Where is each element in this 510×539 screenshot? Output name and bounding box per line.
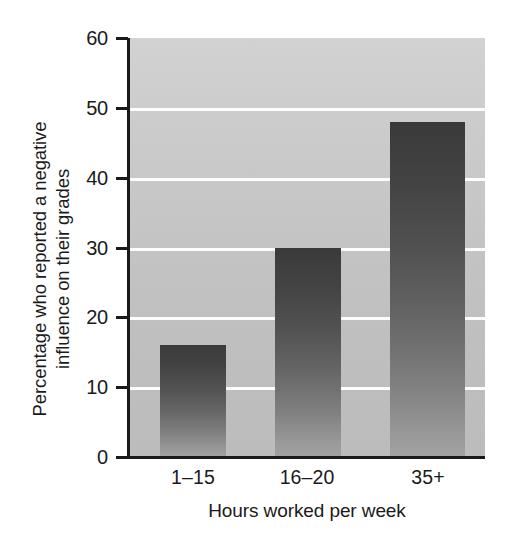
y-tick-label-10: 10 xyxy=(60,377,108,397)
x-axis-title: Hours worked per week xyxy=(129,500,485,522)
bar-1-15 xyxy=(160,345,226,457)
y-tick-label-60: 60 xyxy=(60,28,108,48)
y-tick-label-0: 0 xyxy=(60,447,108,467)
tick-mark-60 xyxy=(116,37,128,40)
tick-mark-40 xyxy=(116,177,128,180)
x-category-label-35-plus: 35+ xyxy=(363,466,493,489)
x-category-label-16-20: 16–20 xyxy=(242,466,372,489)
y-tick-label-40: 40 xyxy=(60,168,108,188)
tick-mark-50 xyxy=(116,107,128,110)
y-axis-title-line-1: Percentage who reported a negative xyxy=(29,122,52,417)
bar-35-plus xyxy=(390,122,465,457)
x-category-label-1-15: 1–15 xyxy=(128,466,258,489)
bar-16-20 xyxy=(275,248,341,458)
y-axis-title-line-2: influence on their grades xyxy=(52,169,75,369)
tick-mark-0 xyxy=(116,456,128,459)
tick-mark-20 xyxy=(116,316,128,319)
gridline-50 xyxy=(129,108,485,111)
x-axis-line xyxy=(127,456,485,459)
tick-mark-10 xyxy=(116,386,128,389)
y-tick-label-30: 30 xyxy=(60,238,108,258)
y-tick-label-50: 50 xyxy=(60,98,108,118)
tick-mark-30 xyxy=(116,247,128,250)
y-tick-label-20: 20 xyxy=(60,307,108,327)
bar-chart-figure: Percentage who reported a negative influ… xyxy=(0,0,510,539)
plot-area xyxy=(129,38,485,457)
